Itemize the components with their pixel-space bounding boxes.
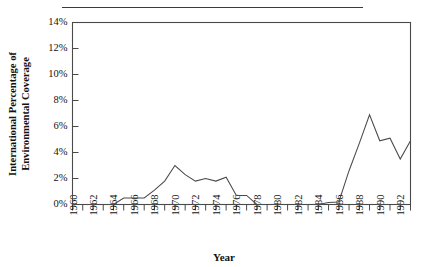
- y-axis-tick-label: 10%: [48, 68, 68, 79]
- y-axis-tick-label: 0%: [54, 198, 68, 209]
- y-axis-tick-label: 14%: [48, 16, 68, 27]
- y-axis-tick-label: 8%: [54, 94, 68, 105]
- data-series-line: [73, 115, 411, 205]
- x-axis-title: Year: [213, 251, 235, 263]
- y-axis-ticks: [73, 23, 79, 205]
- svg-text:International Percentage of: International Percentage of: [7, 52, 18, 176]
- chart-plot-area: 0%2%4%6%8%10%12%14% 19601962196419661968…: [0, 0, 423, 267]
- svg-text:Environmental Coverage: Environmental Coverage: [20, 57, 31, 171]
- figure-container: 0%2%4%6%8%10%12%14% 19601962196419661968…: [0, 0, 423, 267]
- y-axis-title: International Percentage of Environmenta…: [7, 52, 31, 176]
- plot-frame: [73, 23, 411, 205]
- line-chart-svg: 0%2%4%6%8%10%12%14% 19601962196419661968…: [0, 0, 423, 267]
- y-axis-tick-labels: 0%2%4%6%8%10%12%14%: [48, 16, 68, 209]
- y-axis-tick-label: 6%: [54, 120, 68, 131]
- y-axis-tick-label: 12%: [48, 42, 68, 53]
- y-axis-tick-label: 2%: [54, 172, 68, 183]
- y-axis-tick-label: 4%: [54, 146, 68, 157]
